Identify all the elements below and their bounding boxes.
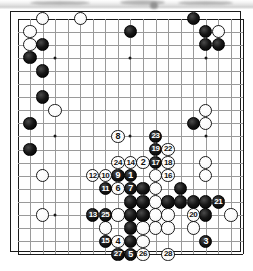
move-stone[interactable]: 14 [124, 156, 137, 169]
move-number: 27 [114, 250, 122, 258]
move-stone[interactable]: 17 [149, 156, 162, 169]
stone[interactable] [161, 221, 174, 234]
move-stone[interactable]: 24 [111, 156, 124, 169]
stone[interactable] [23, 51, 36, 64]
stone[interactable] [36, 12, 49, 25]
stone[interactable] [161, 208, 174, 221]
move-stone[interactable]: 4 [111, 235, 124, 248]
grid-line-horizontal [18, 150, 244, 151]
stone[interactable] [36, 64, 49, 77]
stone[interactable] [36, 38, 49, 51]
stone[interactable] [187, 117, 200, 130]
stone[interactable] [136, 221, 149, 234]
move-stone[interactable]: 25 [99, 208, 112, 221]
stone[interactable] [199, 104, 212, 117]
move-stone[interactable]: 18 [161, 156, 174, 169]
grid-line-vertical [218, 19, 219, 255]
move-stone[interactable]: 7 [124, 182, 137, 195]
stone[interactable] [212, 38, 225, 51]
go-board[interactable]: 1234567891011121314151617181920212223242… [10, 11, 241, 252]
move-stone[interactable]: 26 [136, 248, 149, 261]
star-point [204, 135, 207, 138]
move-number: 16 [164, 172, 172, 180]
stone[interactable] [136, 195, 149, 208]
move-stone[interactable]: 5 [124, 248, 137, 261]
stone[interactable] [48, 104, 61, 117]
stone[interactable] [224, 208, 237, 221]
move-stone[interactable]: 9 [111, 169, 124, 182]
stone[interactable] [124, 208, 137, 221]
stone[interactable] [187, 12, 200, 25]
stone[interactable] [136, 182, 149, 195]
stone[interactable] [161, 195, 174, 208]
move-stone[interactable]: 6 [111, 182, 124, 195]
stone[interactable] [36, 208, 49, 221]
stone[interactable] [136, 235, 149, 248]
move-number: 20 [189, 211, 197, 219]
stone[interactable] [124, 235, 137, 248]
move-number: 2 [141, 158, 146, 167]
move-stone[interactable]: 2 [136, 156, 149, 169]
stone[interactable] [187, 195, 200, 208]
stone[interactable] [149, 169, 162, 182]
move-number: 24 [114, 159, 122, 167]
stone[interactable] [99, 221, 112, 234]
move-stone[interactable]: 16 [161, 169, 174, 182]
stone[interactable] [136, 208, 149, 221]
move-number: 17 [151, 159, 159, 167]
move-number: 23 [151, 132, 159, 140]
stone[interactable] [36, 90, 49, 103]
move-stone[interactable]: 28 [161, 248, 174, 261]
stone[interactable] [23, 38, 36, 51]
move-stone[interactable]: 23 [149, 130, 162, 143]
stone[interactable] [212, 25, 225, 38]
stone[interactable] [124, 221, 137, 234]
star-point [204, 56, 207, 59]
move-stone[interactable]: 20 [187, 208, 200, 221]
stone[interactable] [23, 143, 36, 156]
stone[interactable] [199, 38, 212, 51]
move-number: 19 [151, 145, 159, 153]
stone[interactable] [36, 169, 49, 182]
move-number: 25 [101, 211, 109, 219]
move-stone[interactable]: 13 [86, 208, 99, 221]
move-number: 4 [116, 237, 121, 246]
move-stone[interactable]: 11 [99, 182, 112, 195]
move-number: 7 [128, 184, 133, 193]
move-stone[interactable]: 1 [124, 169, 137, 182]
move-stone[interactable]: 12 [86, 169, 99, 182]
move-number: 28 [164, 250, 172, 258]
move-stone[interactable]: 15 [99, 235, 112, 248]
scan-artifact-band [0, 0, 253, 9]
move-stone[interactable]: 10 [99, 169, 112, 182]
stone[interactable] [124, 25, 137, 38]
stone[interactable] [199, 169, 212, 182]
move-number: 11 [102, 185, 110, 193]
stone[interactable] [111, 208, 124, 221]
star-point [54, 135, 57, 138]
move-stone[interactable]: 3 [199, 235, 212, 248]
stone[interactable] [74, 12, 87, 25]
stone[interactable] [199, 195, 212, 208]
stone[interactable] [23, 117, 36, 130]
move-stone[interactable]: 8 [111, 130, 124, 143]
move-stone[interactable]: 19 [149, 143, 162, 156]
board-surface[interactable]: 1234567891011121314151617181920212223242… [10, 11, 241, 252]
stone[interactable] [199, 117, 212, 130]
stone[interactable] [199, 156, 212, 169]
stone[interactable] [174, 182, 187, 195]
stone[interactable] [199, 25, 212, 38]
move-number: 12 [89, 172, 97, 180]
stone[interactable] [187, 221, 200, 234]
stone[interactable] [199, 208, 212, 221]
stone[interactable] [149, 221, 162, 234]
stone[interactable] [124, 195, 137, 208]
stone[interactable] [174, 195, 187, 208]
move-stone[interactable]: 21 [212, 195, 225, 208]
stone[interactable] [149, 208, 162, 221]
stone[interactable] [23, 25, 36, 38]
stone[interactable] [149, 182, 162, 195]
stone[interactable] [149, 195, 162, 208]
move-stone[interactable]: 27 [111, 248, 124, 261]
move-stone[interactable]: 22 [161, 143, 174, 156]
